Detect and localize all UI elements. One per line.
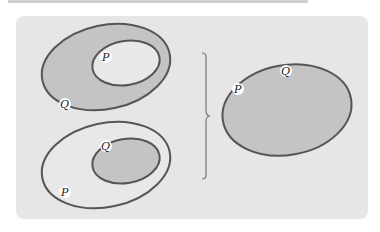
label-q: Q: [60, 98, 69, 111]
label-q: Q: [281, 65, 290, 78]
venn-diagram: P Q Q P Q P: [0, 0, 380, 232]
label-p: P: [101, 51, 110, 64]
diagram-p-subset-q: P Q: [34, 12, 179, 121]
diagram-q-subset-p: Q P: [34, 110, 179, 219]
label-p: P: [233, 83, 242, 96]
label-q: Q: [101, 140, 110, 153]
right-curly-brace-icon: [202, 53, 210, 179]
diagram-p-equals-q: Q P: [215, 54, 359, 165]
label-p: P: [60, 186, 69, 199]
